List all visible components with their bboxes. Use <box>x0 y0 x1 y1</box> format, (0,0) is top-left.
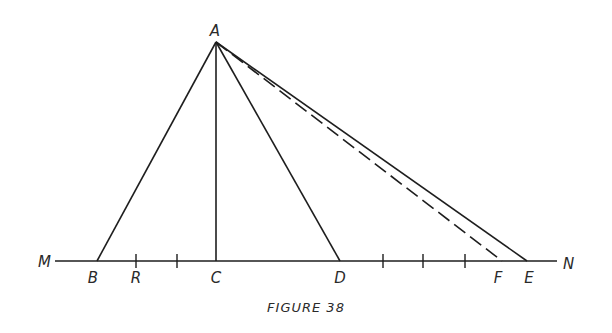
label-c: C <box>211 269 222 287</box>
label-e: E <box>524 269 534 287</box>
label-d: D <box>334 269 346 287</box>
segment-ad <box>216 42 340 261</box>
segment-ab <box>97 42 216 261</box>
segment-af <box>216 42 502 261</box>
label-n: N <box>563 255 574 273</box>
label-b: B <box>88 269 98 287</box>
geometry-figure: ABRCDFEMN FIGURE 38 <box>0 0 612 333</box>
label-r: R <box>131 269 141 287</box>
label-a: A <box>209 22 220 40</box>
label-m: M <box>38 253 51 271</box>
figure-caption: FIGURE 38 <box>267 300 345 315</box>
point-labels: ABRCDFEMN <box>38 22 574 287</box>
label-f: F <box>494 269 503 287</box>
segment-ae <box>216 42 527 261</box>
figure-lines <box>55 42 557 261</box>
